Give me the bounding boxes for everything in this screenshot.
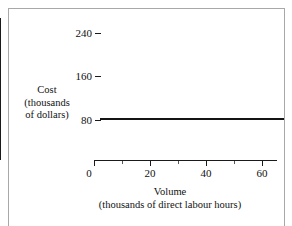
y-tick-label-160: 160 (52, 71, 92, 82)
x-tick-minor-50 (234, 161, 235, 164)
y-tick-240 (95, 33, 101, 34)
x-tick-label-60: 60 (247, 168, 277, 179)
x-axis-title: Volume (thousands of direct labour hours… (60, 186, 280, 211)
figure-container: 240 160 80 0 20 40 60 Cost (thousands of… (0, 0, 292, 226)
x-tick-label-20: 20 (135, 168, 165, 179)
x-tick-60 (262, 161, 263, 166)
y-axis-title-line-3: of dollars) (6, 109, 88, 122)
x-axis-title-line-1: Volume (60, 186, 280, 199)
y-tick-160 (95, 76, 101, 77)
y-axis-title-line-2: (thousands (6, 97, 88, 110)
x-tick-20 (150, 161, 151, 166)
y-axis-title-line-1: Cost (6, 84, 88, 97)
x-tick-label-0: 0 (74, 168, 104, 179)
y-tick-label-240: 240 (52, 28, 92, 39)
x-tick-label-40: 40 (191, 168, 221, 179)
x-tick-minor-30 (178, 161, 179, 164)
x-tick-minor-10 (122, 161, 123, 164)
x-tick-40 (206, 161, 207, 166)
y-tick-80 (95, 120, 101, 121)
series-fixed-cost-line (100, 118, 285, 120)
y-axis-line (0, 18, 1, 160)
y-axis-title: Cost (thousands of dollars) (6, 84, 88, 122)
x-tick-0 (94, 161, 95, 166)
x-axis-title-line-2: (thousands of direct labour hours) (60, 199, 280, 212)
